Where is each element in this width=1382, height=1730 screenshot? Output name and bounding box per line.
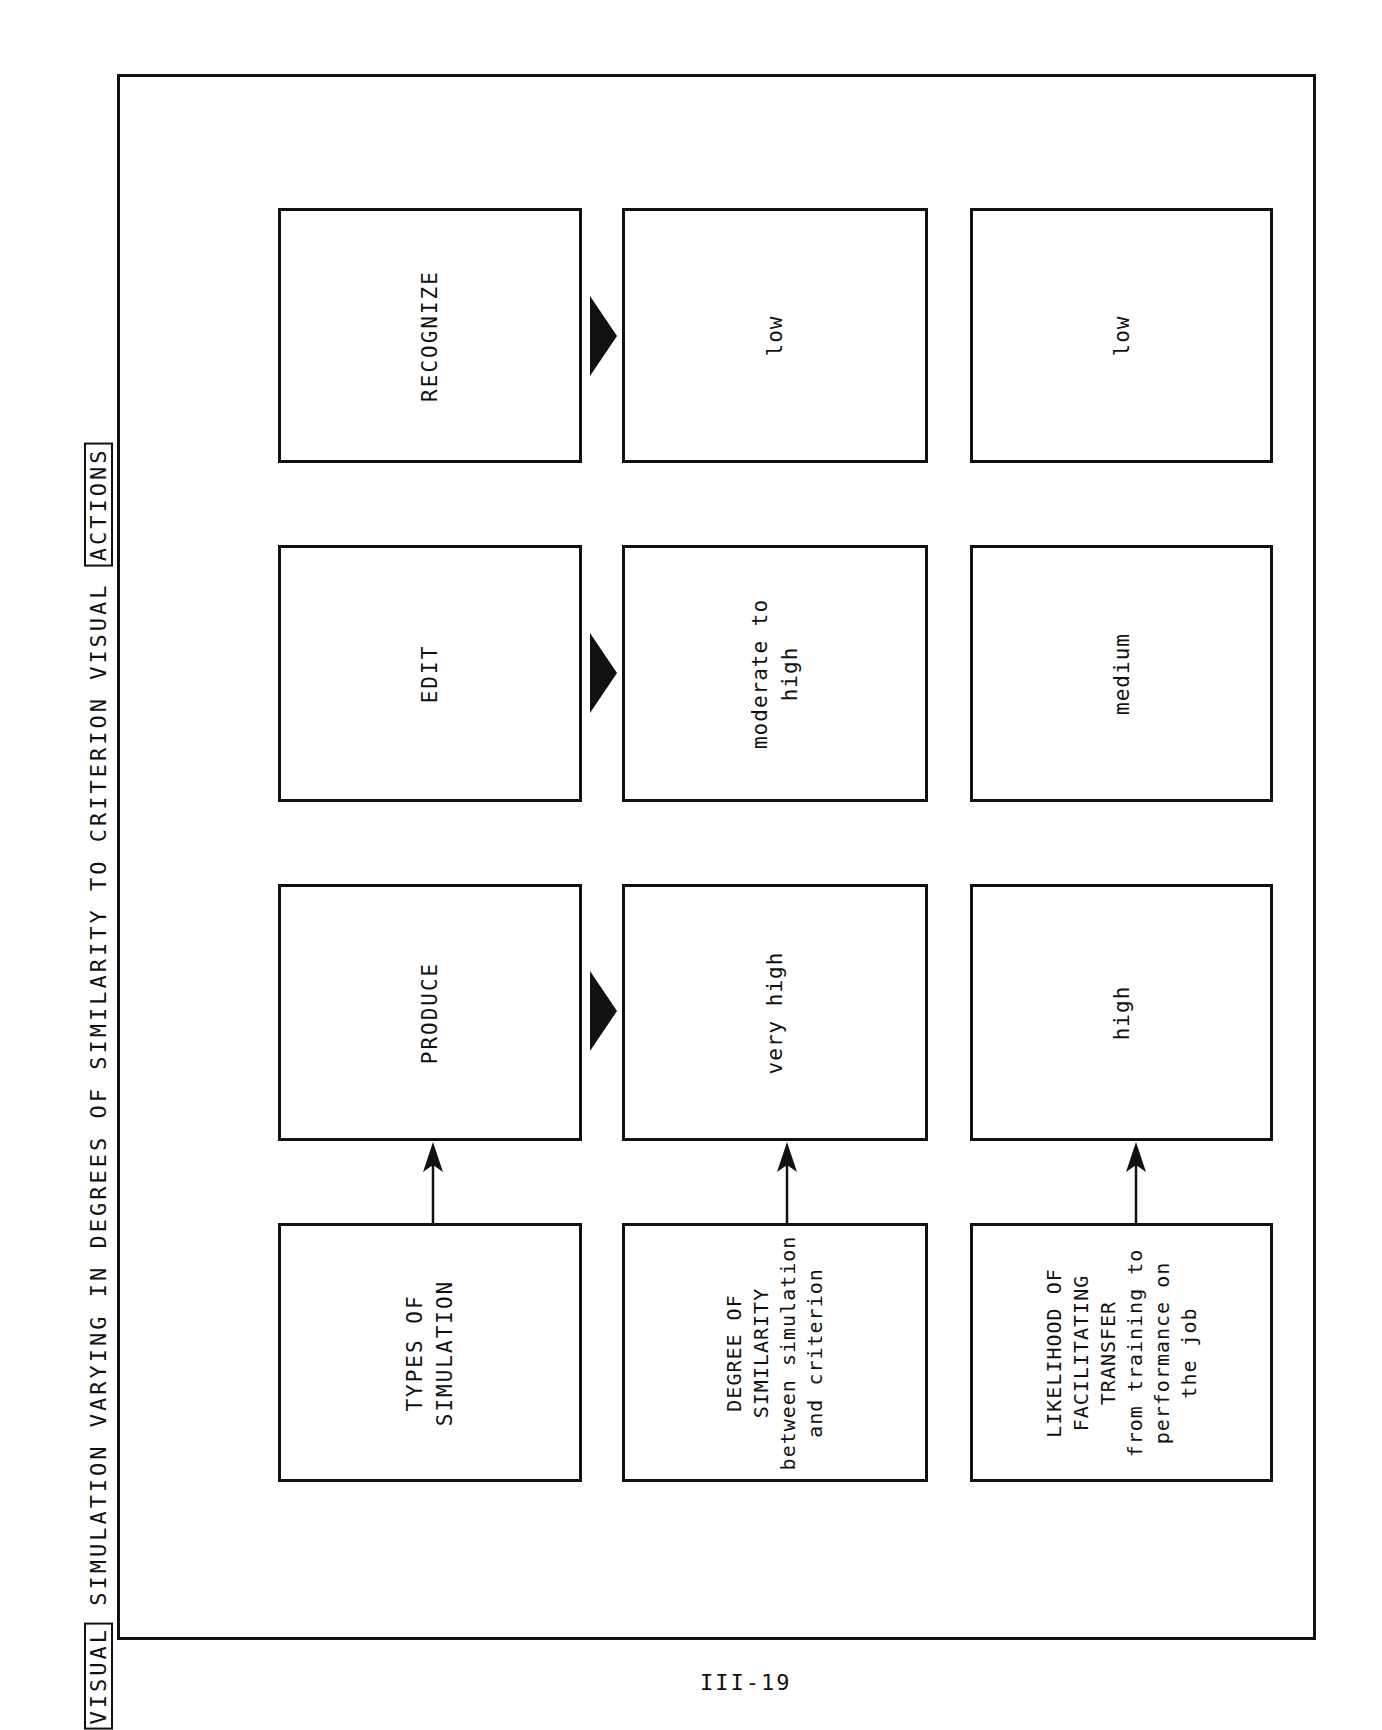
up-arrow-transfer-icon [1126, 1142, 1146, 1223]
triangle-arrow-produce-icon [590, 971, 617, 1051]
triangle-arrow-edit-icon [590, 633, 617, 713]
triangle-arrow-recognize-icon [590, 296, 617, 376]
up-arrow-types-icon [423, 1142, 443, 1223]
up-arrow-similarity-icon [777, 1142, 797, 1223]
page-number: III-19 [700, 1670, 791, 1695]
